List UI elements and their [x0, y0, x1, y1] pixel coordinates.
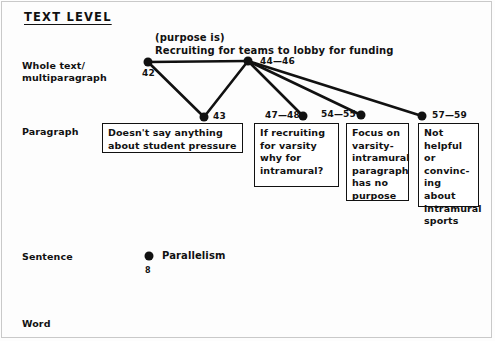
- node-label-57-59: 57—59: [432, 110, 467, 120]
- node-dot-parallelism[interactable]: [145, 252, 154, 261]
- edge-lines: [148, 61, 422, 117]
- sentence-item-label: Parallelism: [162, 250, 225, 261]
- comment-box-57-59[interactable]: Not helpful or convinc- ing about intram…: [418, 123, 479, 207]
- comment-box-47-48[interactable]: If recruiting for varsity why for intram…: [254, 123, 339, 187]
- diagram-canvas: TEXT LEVEL Whole text/ multiparagraph Pa…: [0, 0, 495, 341]
- comment-box-54-55[interactable]: Focus on varsity- intramural paragraph h…: [346, 123, 409, 201]
- sentence-item-count: 8: [145, 266, 151, 275]
- node-label-54-55: 54—55: [321, 109, 356, 119]
- edge-42-to-43: [148, 62, 204, 117]
- edge-42-to-44—46: [148, 61, 248, 62]
- edge-44—46-to-54—55: [248, 61, 361, 115]
- node-dot-43[interactable]: [200, 113, 209, 122]
- node-dot-54-55[interactable]: [357, 111, 366, 120]
- comment-box-43[interactable]: Doesn't say anything about student press…: [102, 123, 243, 153]
- node-label-43: 43: [213, 111, 226, 121]
- node-dot-57-59[interactable]: [418, 112, 427, 121]
- node-label-47-48: 47—48: [265, 110, 300, 120]
- edge-44—46-to-43: [204, 61, 248, 117]
- node-dot-42[interactable]: [144, 58, 153, 67]
- node-dot-44-46[interactable]: [244, 57, 253, 66]
- node-label-42: 42: [142, 68, 155, 78]
- node-label-44-46: 44—46: [260, 56, 295, 66]
